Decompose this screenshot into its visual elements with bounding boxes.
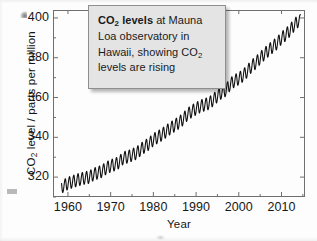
x-axis-tick-label: 1980 (139, 200, 167, 214)
figure-co2-keeling-curve: 320340360380400 196019701980199020002010… (0, 0, 317, 241)
x-axis-tick-label: 2000 (225, 200, 253, 214)
y-axis-title: CO2 level / parts per million (25, 18, 37, 188)
caption-text: CO2 levels at Mauna Loa observatory in H… (98, 13, 217, 76)
x-axis-tick-label: 1990 (182, 200, 210, 214)
caption-emphasis: CO2 levels (98, 14, 153, 26)
x-axis-tick-label: 2010 (267, 200, 295, 214)
x-axis-tick-label-group: 196019701980199020002010 (0, 200, 317, 218)
x-axis-tick-label: 1970 (97, 200, 125, 214)
x-axis-title: Year (53, 218, 305, 230)
x-axis-tick-label: 1960 (54, 200, 82, 214)
caption-callout-box: CO2 levels at Mauna Loa observatory in H… (88, 5, 226, 89)
